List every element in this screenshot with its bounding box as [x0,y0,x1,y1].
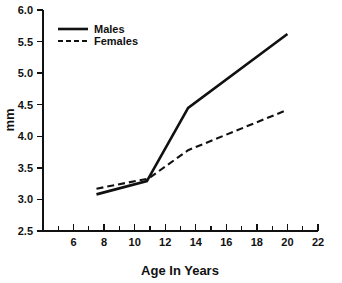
y-tick-label: 5.5 [18,36,33,48]
legend-label-females: Females [94,35,138,47]
x-tick-label: 14 [190,236,203,248]
y-tick-label: 2.5 [18,225,33,237]
x-tick-label: 10 [129,236,141,248]
series-line-females [96,110,287,189]
x-tick-label: 12 [159,236,171,248]
line-chart-figure: 2.53.03.54.04.55.05.56.0 681012141618202… [0,0,342,283]
y-axis-ticks [37,10,43,231]
x-tick-label: 20 [281,236,293,248]
y-tick-label: 5.0 [18,67,33,79]
y-tick-label: 3.0 [18,193,33,205]
y-tick-label: 6.0 [18,4,33,16]
x-tick-label: 18 [251,236,263,248]
x-axis-ticks [74,224,318,231]
y-axis-title: mm [2,108,17,131]
series-line-males [96,34,287,194]
chart-canvas: 2.53.03.54.04.55.05.56.0 681012141618202… [0,0,342,283]
y-tick-label: 3.5 [18,162,33,174]
x-tick-label: 6 [70,236,76,248]
y-tick-label: 4.0 [18,130,33,142]
x-tick-label: 8 [101,236,107,248]
legend-label-males: Males [94,23,125,35]
chart-legend: MalesFemales [58,23,138,47]
x-axis-title: Age In Years [141,263,219,278]
x-axis-tick-labels: 6810121416182022 [70,236,324,248]
x-tick-label: 16 [220,236,232,248]
y-axis-tick-labels: 2.53.03.54.04.55.05.56.0 [18,4,33,237]
x-tick-label: 22 [312,236,324,248]
y-tick-label: 4.5 [18,99,33,111]
data-series-group [96,34,287,194]
